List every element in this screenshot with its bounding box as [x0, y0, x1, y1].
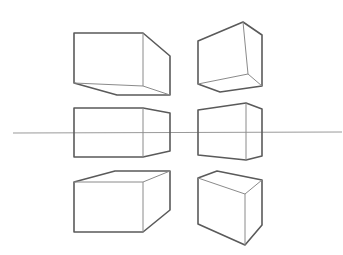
box-top-left [74, 33, 170, 95]
horizon-line [13, 132, 342, 133]
perspective-diagram [0, 0, 343, 255]
box-bottom-left [74, 171, 170, 232]
box-top-right [198, 22, 262, 92]
box-bottom-right [198, 171, 262, 245]
box-middle-right [198, 103, 262, 160]
